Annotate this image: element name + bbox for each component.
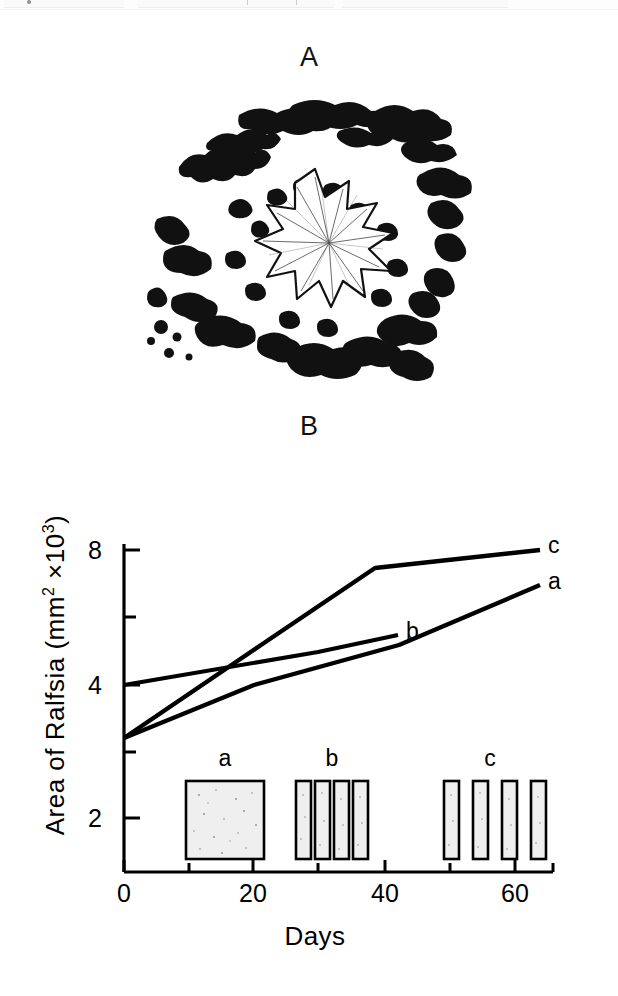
inset-label-b: b <box>307 745 357 772</box>
x-tick-label-40: 40 <box>364 879 406 908</box>
chrome-tick-two <box>296 0 297 5</box>
x-tick-label-60: 60 <box>494 879 536 908</box>
x-tick-label-20: 20 <box>232 879 274 908</box>
cropped-browser-chrome <box>0 0 618 10</box>
ralfsia-limpet-illustration <box>143 85 487 395</box>
chrome-segment-left <box>4 0 124 8</box>
y-tick-label-8: 8 <box>78 536 112 565</box>
x-axis-title: Days <box>150 921 480 952</box>
chrome-segment-mid <box>138 0 334 8</box>
chrome-segment-right <box>342 0 508 8</box>
series-label-c: c <box>548 532 560 559</box>
series-label-a: a <box>548 568 561 595</box>
inset-label-c: c <box>465 745 515 772</box>
panel-a: A <box>0 30 618 405</box>
series-label-b: b <box>406 618 419 645</box>
y-tick-label-4: 4 <box>78 671 112 700</box>
panel-a-label: A <box>0 44 618 71</box>
y-tick-label-2: 2 <box>78 804 112 833</box>
inset-label-a: a <box>200 745 250 772</box>
chrome-tick-one <box>247 0 248 5</box>
x-tick-label-0: 0 <box>107 879 141 908</box>
figure-root: A <box>0 0 618 996</box>
panel-b: B Area of Ralfsia (mm2 ×103) <box>0 405 618 996</box>
chrome-dot-icon <box>27 0 31 4</box>
